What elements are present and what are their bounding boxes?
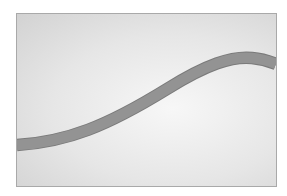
s-curve-band — [17, 14, 276, 186]
gradient-panel — [16, 13, 277, 187]
